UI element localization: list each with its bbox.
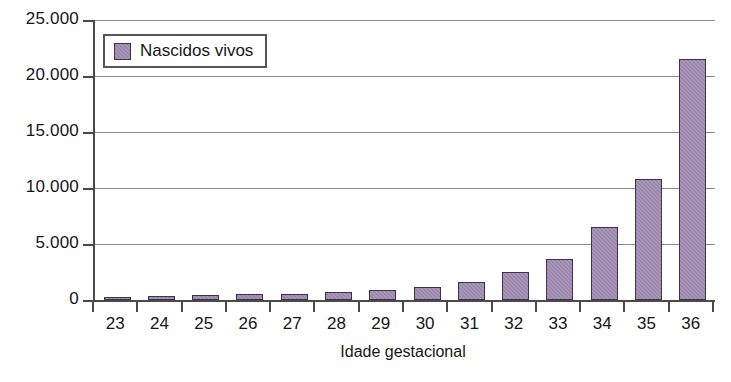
x-axis-tick-mark xyxy=(136,302,138,312)
x-axis-tick xyxy=(359,302,403,312)
x-axis-tick-mark xyxy=(225,302,227,312)
bar-slot xyxy=(272,20,316,300)
x-axis-tick-label: 33 xyxy=(536,313,580,335)
chart-legend: Nascidos vivos xyxy=(103,34,267,68)
bar[interactable] xyxy=(325,292,352,300)
x-axis-tick xyxy=(182,302,226,312)
y-axis-tick-label: 20.000 xyxy=(26,64,79,86)
x-axis-tick-mark xyxy=(92,302,94,312)
x-axis-tick xyxy=(314,302,358,312)
bar[interactable] xyxy=(546,259,573,300)
y-axis-tick-mark xyxy=(83,20,93,22)
bar[interactable] xyxy=(236,294,263,300)
bar[interactable] xyxy=(281,294,308,300)
x-axis-ticks xyxy=(93,302,713,312)
x-axis-tick-labels: 2324252627282930313233343536 xyxy=(93,313,713,335)
x-axis-tick-mark xyxy=(491,302,493,312)
bar-slot xyxy=(405,20,449,300)
x-axis-tick xyxy=(137,302,181,312)
x-axis-tick xyxy=(536,302,580,312)
y-axis-tick-label: 5.000 xyxy=(35,232,79,254)
bar-slot xyxy=(449,20,493,300)
bar[interactable] xyxy=(192,295,219,300)
x-axis-tick xyxy=(403,302,447,312)
x-axis-tick-label: 36 xyxy=(669,313,713,335)
y-axis-tick-label: 15.000 xyxy=(26,120,79,142)
x-axis-tick-mark xyxy=(313,302,315,312)
y-axis-tick-label: 25.000 xyxy=(26,8,79,30)
x-axis-tick-label: 23 xyxy=(93,313,137,335)
x-axis-tick-mark xyxy=(712,302,714,312)
x-axis-tick xyxy=(226,302,270,312)
bar[interactable] xyxy=(502,272,529,300)
y-axis-tick-label: 10.000 xyxy=(26,176,79,198)
x-axis-tick-mark xyxy=(358,302,360,312)
x-axis-title: Idade gestacional xyxy=(93,341,713,363)
bar[interactable] xyxy=(414,287,441,300)
x-axis-tick-label: 30 xyxy=(403,313,447,335)
bar-slot xyxy=(671,20,715,300)
x-axis-tick-mark xyxy=(269,302,271,312)
bar[interactable] xyxy=(458,282,485,300)
bar[interactable] xyxy=(635,179,662,300)
y-axis-tick-label: 0 xyxy=(69,288,79,310)
legend-label: Nascidos vivos xyxy=(140,41,253,61)
x-axis: 2324252627282930313233343536 xyxy=(93,302,713,342)
y-axis-tick-mark xyxy=(83,188,93,190)
bar-slot xyxy=(582,20,626,300)
x-axis-tick-label: 28 xyxy=(314,313,358,335)
x-axis-tick-label: 25 xyxy=(182,313,226,335)
x-axis-tick xyxy=(624,302,668,312)
x-axis-tick-label: 29 xyxy=(359,313,403,335)
y-axis: 25.000 20.000 15.000 10.000 5.000 0 xyxy=(0,20,93,300)
x-axis-tick-mark xyxy=(623,302,625,312)
bar[interactable] xyxy=(148,296,175,300)
x-axis-tick xyxy=(669,302,713,312)
bar[interactable] xyxy=(369,290,396,300)
x-axis-tick xyxy=(492,302,536,312)
x-axis-tick-mark xyxy=(446,302,448,312)
bar-slot xyxy=(361,20,405,300)
bar[interactable] xyxy=(104,297,131,300)
y-axis-tick-mark xyxy=(83,76,93,78)
x-axis-tick-mark xyxy=(668,302,670,312)
x-axis-tick-mark xyxy=(181,302,183,312)
x-axis-tick-label: 27 xyxy=(270,313,314,335)
x-axis-tick xyxy=(447,302,491,312)
x-axis-tick xyxy=(580,302,624,312)
x-axis-tick-label: 35 xyxy=(624,313,668,335)
bar-slot xyxy=(316,20,360,300)
x-axis-tick-label: 26 xyxy=(226,313,270,335)
x-axis-tick-mark xyxy=(402,302,404,312)
bar-slot xyxy=(538,20,582,300)
bar[interactable] xyxy=(591,227,618,300)
x-axis-tick-label: 24 xyxy=(137,313,181,335)
y-axis-tick-mark xyxy=(83,132,93,134)
x-axis-tick xyxy=(270,302,314,312)
bar-slot xyxy=(626,20,670,300)
x-axis-tick-label: 31 xyxy=(447,313,491,335)
bar[interactable] xyxy=(679,59,706,300)
y-axis-tick-mark xyxy=(83,244,93,246)
legend-swatch-icon xyxy=(114,43,131,60)
x-axis-tick xyxy=(93,302,137,312)
x-axis-tick-mark xyxy=(535,302,537,312)
x-axis-tick-mark xyxy=(579,302,581,312)
x-axis-tick-label: 34 xyxy=(580,313,624,335)
bar-slot xyxy=(494,20,538,300)
x-axis-tick-label: 32 xyxy=(492,313,536,335)
bar-chart-figure: 25.000 20.000 15.000 10.000 5.000 0 xyxy=(0,0,731,382)
